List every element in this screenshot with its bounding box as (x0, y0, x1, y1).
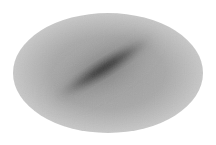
density-band (0, 0, 216, 145)
noise-texture (0, 0, 216, 145)
sky-map-canvas (0, 0, 216, 145)
sky-map (0, 0, 216, 145)
